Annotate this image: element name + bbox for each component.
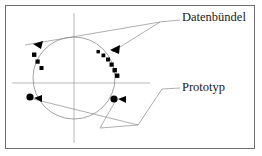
data-point-marker xyxy=(40,66,44,70)
data-point-marker xyxy=(113,68,117,72)
label-datenbuendel: Datenbündel xyxy=(182,11,246,24)
data-point-marker xyxy=(115,74,119,78)
data-point-marker xyxy=(102,54,106,58)
data-point-marker xyxy=(97,50,100,53)
data-point-marker xyxy=(106,58,110,62)
data-point-marker xyxy=(32,53,36,57)
data-point-marker xyxy=(36,60,40,64)
figure-container: Datenbündel Prototyp xyxy=(0,0,262,156)
prototype-marker-right xyxy=(110,95,117,102)
label-prototyp: Prototyp xyxy=(182,81,225,94)
data-point-marker xyxy=(110,63,114,67)
prototype-marker-left xyxy=(26,93,33,100)
